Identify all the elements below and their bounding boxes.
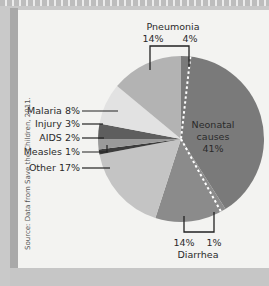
pneumonia-title: Pneumonia	[147, 21, 200, 32]
pneumonia-neonatal-pct: 4%	[182, 33, 197, 44]
pie-slices	[98, 56, 264, 222]
diarrhea-neonatal-pct: 1%	[206, 237, 221, 248]
diarrhea-title: Diarrhea	[178, 249, 219, 260]
malaria-label: Malaria 8%	[27, 105, 80, 116]
injury-label: Injury 3%	[35, 118, 80, 129]
source-note: Source: Data from Save the Children, 201…	[24, 97, 32, 250]
pie-chart: Neonatal causes 41% Pneumonia 14% 4% 14%…	[0, 0, 269, 286]
other-label: Other 17%	[29, 162, 80, 173]
measles-label: Measles 1%	[24, 146, 80, 157]
pneumonia-total-pct: 14%	[142, 33, 163, 44]
aids-label: AIDS 2%	[39, 132, 80, 143]
neonatal-label-value: 41%	[202, 143, 223, 154]
neonatal-label-line2: causes	[197, 131, 230, 142]
diarrhea-total-pct: 14%	[173, 237, 194, 248]
neonatal-label-line1: Neonatal	[192, 119, 235, 130]
